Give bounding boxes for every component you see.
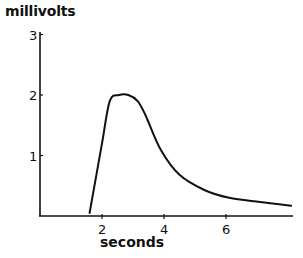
ticks: 123246	[29, 28, 230, 238]
x-tick-label: 6	[222, 222, 230, 237]
y-tick-label: 1	[29, 149, 37, 164]
x-tick-label: 2	[98, 222, 106, 237]
data-line	[90, 94, 292, 213]
chart-plot: 123246	[0, 0, 303, 258]
x-tick-label: 4	[160, 222, 168, 237]
y-tick-label: 2	[29, 88, 37, 103]
y-tick-label: 3	[29, 28, 37, 43]
